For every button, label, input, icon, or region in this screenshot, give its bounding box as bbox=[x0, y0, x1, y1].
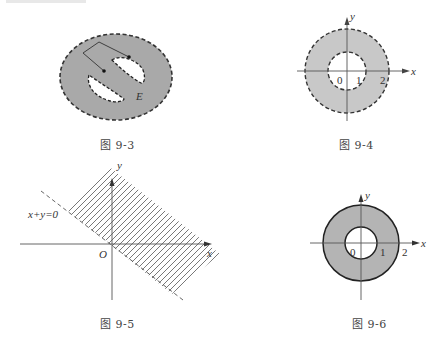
x-axis-label: x bbox=[420, 237, 426, 249]
caption-fig-9-6: 图 9-6 bbox=[352, 315, 387, 331]
figure-9-6: x y 0 1 2 bbox=[0, 0, 443, 345]
y-axis-label: y bbox=[364, 189, 370, 201]
tick-2-label: 2 bbox=[402, 246, 408, 258]
origin-label: 0 bbox=[350, 246, 356, 258]
x-axis-arrow-icon bbox=[412, 241, 420, 246]
caption-fig-9-4: 图 9-4 bbox=[339, 136, 374, 152]
caption-fig-9-5: 图 9-5 bbox=[100, 315, 135, 331]
tick-1-label: 1 bbox=[380, 246, 386, 258]
caption-fig-9-3: 图 9-3 bbox=[100, 136, 135, 152]
y-axis-arrow-icon bbox=[359, 194, 364, 202]
